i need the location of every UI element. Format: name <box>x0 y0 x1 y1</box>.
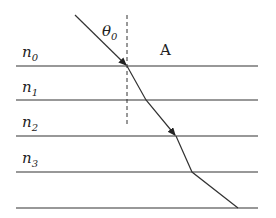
layer-label-n0: n0 <box>22 43 39 63</box>
layer-label-n2: n2 <box>22 113 38 133</box>
angle-label: θ0 <box>102 22 118 42</box>
refraction-diagram: θ0 A n0 n1 n2 n3 <box>0 0 276 218</box>
incident-ray <box>75 15 126 65</box>
region-label-a: A <box>159 41 171 59</box>
layer-label-n1: n1 <box>22 78 38 98</box>
layer-label-n3: n3 <box>22 149 38 169</box>
